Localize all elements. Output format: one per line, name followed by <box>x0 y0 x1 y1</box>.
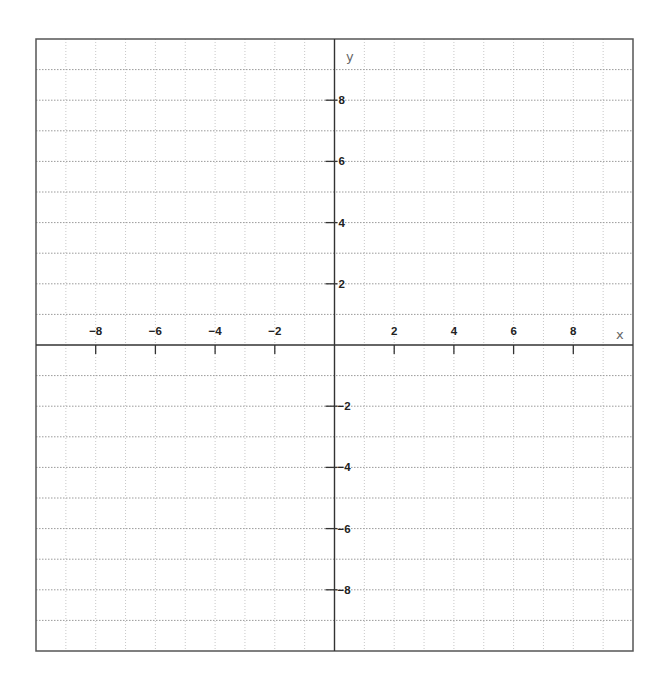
x-tick-label: −8 <box>89 325 103 337</box>
coordinate-plane: −8−6−4−22468 8642−2−4−6−8 x y <box>0 0 665 693</box>
y-tick-label: 4 <box>339 217 346 229</box>
x-tick-label: 6 <box>510 325 516 337</box>
y-tick-label: −6 <box>338 523 351 535</box>
x-tick-label: −6 <box>149 325 162 337</box>
x-tick-label: 4 <box>451 325 458 337</box>
y-tick-label: −4 <box>338 461 352 473</box>
x-tick-label: −4 <box>209 325 223 337</box>
y-axis-label: y <box>346 49 354 64</box>
y-tick-label: −8 <box>338 584 352 596</box>
x-tick-label: 2 <box>391 325 397 337</box>
y-tick-label: 8 <box>339 94 346 106</box>
x-axis-label: x <box>616 327 624 342</box>
y-tick-label: 2 <box>339 278 345 290</box>
y-tick-label: 6 <box>339 155 345 167</box>
x-tick-label: −2 <box>268 325 281 337</box>
y-tick-label: −2 <box>338 400 351 412</box>
x-axis-ticks: −8−6−4−22468 <box>89 325 577 354</box>
x-tick-label: 8 <box>570 325 577 337</box>
